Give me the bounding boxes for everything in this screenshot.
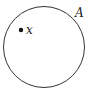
element-x-label: x [26, 23, 33, 37]
set-diagram: A x [0, 0, 91, 95]
element-x-dot [19, 28, 23, 32]
set-a-label: A [74, 6, 84, 20]
set-a-circle [4, 7, 85, 88]
